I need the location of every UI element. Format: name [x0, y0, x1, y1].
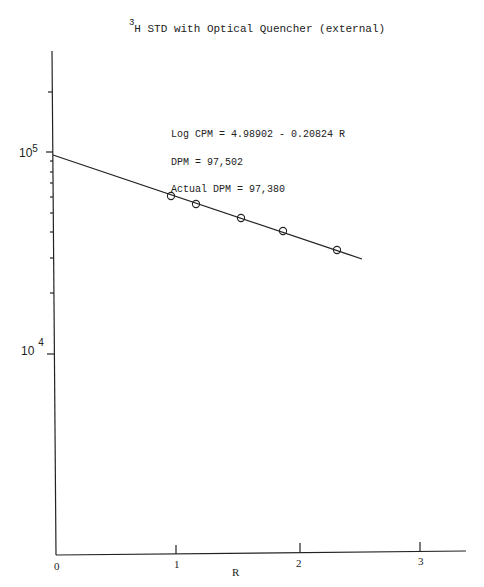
y-axis [52, 51, 56, 555]
x-tick-label-0: 0 [54, 560, 60, 572]
y-tick-label-1e5: 105 [19, 143, 38, 160]
x-tick-label-1: 1 [174, 558, 180, 570]
x-tick-label-3: 3 [418, 555, 424, 567]
y-tick-label-1e4: 104 [21, 341, 40, 358]
plot-area [0, 0, 484, 587]
x-axis [56, 551, 466, 555]
x-tick-label-2: 2 [296, 557, 302, 569]
fit-line [53, 155, 362, 259]
x-axis-label: R [232, 566, 239, 578]
